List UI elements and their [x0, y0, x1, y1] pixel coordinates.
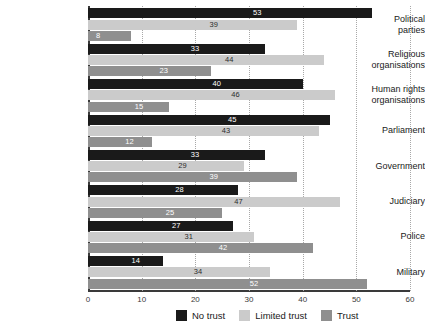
bar-value-label: 33: [191, 151, 200, 159]
bar-value-label: 39: [209, 21, 218, 29]
bar-value-label: 34: [194, 269, 203, 277]
bar-trust-2: 15: [88, 102, 169, 112]
bar-value-label: 40: [213, 80, 222, 88]
bar-no-trust-2: 40: [88, 79, 303, 89]
bar-value-label: 27: [172, 222, 181, 230]
bar-limited-3: 43: [88, 126, 319, 136]
bar-value-label: 45: [228, 116, 237, 124]
legend-label: Trust: [337, 310, 358, 321]
bar-no-trust-4: 33: [88, 150, 265, 160]
bar-no-trust-6: 27: [88, 221, 233, 231]
bar-value-label: 23: [160, 68, 169, 76]
bar-value-label: 44: [225, 56, 234, 64]
bar-limited-0: 39: [88, 20, 297, 30]
bar-value-label: 29: [178, 162, 187, 170]
x-tick-label: 20: [183, 295, 207, 304]
chart-legend: No trustLimited trustTrust: [176, 310, 372, 321]
bar-value-label: 8: [96, 32, 100, 40]
bar-trust-1: 23: [88, 66, 211, 76]
plot-area: 5339833442340461545431233293928472527314…: [88, 8, 410, 291]
bar-value-label: 53: [253, 10, 262, 18]
bar-no-trust-0: 53: [88, 8, 372, 18]
bar-value-label: 47: [234, 198, 243, 206]
x-tick-label: 0: [76, 295, 100, 304]
bar-limited-6: 31: [88, 232, 254, 242]
legend-swatch-icon: [176, 310, 187, 321]
bar-value-label: 43: [222, 127, 231, 135]
x-tick-label: 10: [130, 295, 154, 304]
bar-no-trust-5: 28: [88, 185, 238, 195]
bar-value-label: 46: [231, 92, 240, 100]
bar-value-label: 33: [191, 45, 200, 53]
legend-label: No trust: [192, 310, 225, 321]
bar-trust-0: 8: [88, 31, 131, 41]
bar-value-label: 12: [125, 138, 134, 146]
legend-swatch-icon: [321, 310, 332, 321]
bar-value-label: 14: [132, 257, 141, 265]
bar-trust-4: 39: [88, 172, 297, 182]
chart-page: PoliticalpartiesReligiousorganisationsHu…: [0, 0, 425, 329]
bar-limited-1: 44: [88, 55, 324, 65]
x-tick-label: 50: [344, 295, 368, 304]
bar-value-label: 42: [219, 244, 228, 252]
bar-limited-7: 34: [88, 267, 270, 277]
legend-item-trust[interactable]: Trust: [321, 310, 358, 321]
bar-no-trust-3: 45: [88, 115, 330, 125]
x-tick-label: 30: [237, 295, 261, 304]
legend-item-limited-trust[interactable]: Limited trust: [239, 310, 307, 321]
bar-value-label: 25: [166, 209, 175, 217]
bar-limited-2: 46: [88, 90, 335, 100]
x-tick-label: 60: [398, 295, 422, 304]
bar-trust-6: 42: [88, 243, 313, 253]
bar-limited-4: 29: [88, 161, 244, 171]
legend-swatch-icon: [239, 310, 250, 321]
bar-trust-5: 25: [88, 208, 222, 218]
bar-no-trust-1: 33: [88, 44, 265, 54]
bar-value-label: 31: [184, 233, 193, 241]
bar-limited-5: 47: [88, 197, 340, 207]
bar-no-trust-7: 14: [88, 256, 163, 266]
bar-value-label: 28: [175, 187, 184, 195]
x-tick-label: 40: [291, 295, 315, 304]
bar-trust-7: 52: [88, 279, 367, 289]
bar-value-label: 15: [135, 103, 144, 111]
legend-label: Limited trust: [255, 310, 307, 321]
bar-trust-3: 12: [88, 137, 152, 147]
legend-item-no-trust[interactable]: No trust: [176, 310, 225, 321]
bar-value-label: 39: [209, 174, 218, 182]
bar-value-label: 52: [250, 280, 259, 288]
